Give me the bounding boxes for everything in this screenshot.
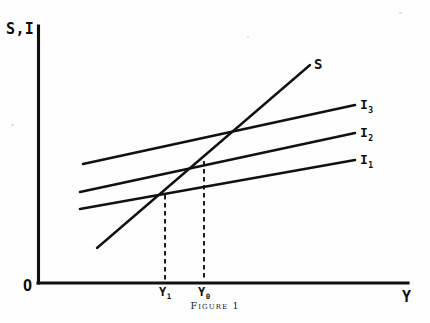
investment-curve-i3-label: I3	[360, 97, 373, 115]
investment-curve-i1-label: I1	[360, 152, 373, 170]
x-tick-y0-letter: Y	[198, 285, 206, 299]
x-tick-label-y1: Y1	[159, 285, 171, 301]
figure-page: S,I Y O S I3 I2 I1 Y1 Y0 Figure 1	[0, 0, 430, 323]
investment-curve-i2	[80, 133, 355, 192]
figure-caption: Figure 1	[0, 300, 430, 311]
investment-curve-i1-letter: I	[360, 152, 368, 167]
investment-curve-i2-subscript: 2	[368, 134, 373, 143]
x-tick-y1-letter: Y	[159, 285, 167, 299]
origin-label: O	[23, 277, 32, 295]
investment-curve-i1	[80, 160, 355, 209]
investment-curve-i2-letter: I	[360, 125, 368, 140]
investment-curve-i1-subscript: 1	[368, 161, 373, 170]
investment-curve-i3-letter: I	[360, 97, 368, 112]
investment-curve-i3	[83, 105, 355, 164]
x-tick-label-y0: Y0	[198, 285, 210, 301]
investment-curve-i3-subscript: 3	[368, 106, 373, 115]
investment-curve-i2-label: I2	[360, 125, 373, 143]
saving-curve-label: S	[314, 56, 323, 72]
y-axis-label: S,I	[6, 20, 34, 38]
